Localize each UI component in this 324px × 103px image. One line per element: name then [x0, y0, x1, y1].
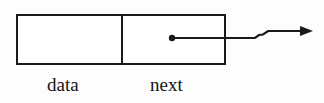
linked-list-node-figure: data next: [0, 0, 324, 103]
field-label-next: next: [150, 75, 183, 94]
field-label-data: data: [47, 75, 79, 94]
pointer-arrowhead: [300, 26, 313, 36]
